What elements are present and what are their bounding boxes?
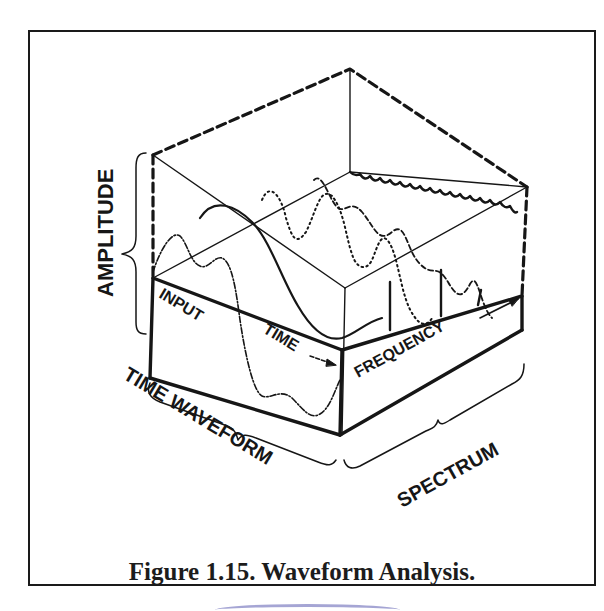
amplitude-label: AMPLITUDE <box>93 169 118 297</box>
figure-caption: Figure 1.15. Waveform Analysis. <box>0 558 604 586</box>
ink-smear <box>215 604 400 611</box>
amplitude-brace-icon <box>122 153 146 334</box>
waveform-analysis-diagram: AMPLITUDE INPUT TIME FREQUENCY TIME WAVE… <box>0 0 604 611</box>
time-arrow-icon <box>326 359 336 366</box>
input-label: INPUT <box>156 285 206 324</box>
spectrum-label: SPECTRUM <box>393 438 502 512</box>
frequency-arrow-icon <box>509 299 518 306</box>
dotted-component-curve <box>262 191 432 323</box>
sine-component-curve <box>200 205 382 338</box>
